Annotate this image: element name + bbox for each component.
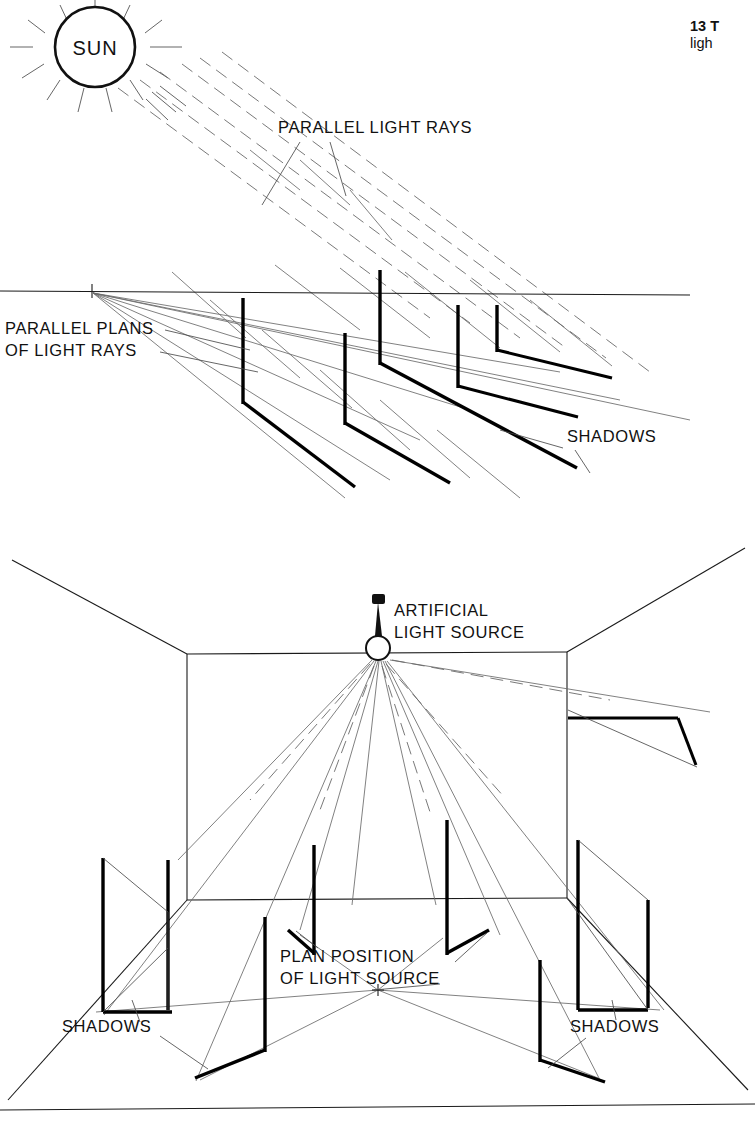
label-parallel-plans-line1: PARALLEL PLANS [5,319,154,337]
back-wall-pole-right [447,820,489,955]
radial-light-rays-dashed [250,660,610,812]
label-shadows-top: SHADOWS [567,427,656,445]
left-wall-shadow-construction [103,858,168,1012]
label-shadows-bottom-left: SHADOWS [62,1017,151,1035]
right-wall-object-and-shadow [578,840,648,1010]
label-artificial-line2: LIGHT SOURCE [394,623,525,641]
label-plan-position-line1: PLAN POSITION [280,947,414,965]
label-parallel-plans-line2: OF LIGHT RAYS [5,341,137,359]
lamp-cap-icon [372,594,385,604]
back-wall-pole-left [288,845,314,955]
page-header-line1: 13 T [690,18,755,35]
technical-illustration: SUN [0,0,755,1124]
shadow [243,402,355,487]
label-parallel-light-rays: PARALLEL LIGHT RAYS [278,118,472,136]
pendant-lamp [366,594,390,660]
page-header-note: 13 T ligh [690,18,755,52]
lamp-cord-icon [375,602,382,636]
sun-diagram: SUN [0,0,690,498]
parallel-light-rays [118,52,650,372]
label-artificial-line1: ARTIFICIAL [394,601,489,619]
sun-label: SUN [72,37,117,59]
drawing-page: SUN [0,0,755,1124]
left-wall-object-and-shadow [103,858,172,1012]
label-shadows-bottom-right: SHADOWS [570,1017,659,1035]
shadow [345,423,450,483]
light-bulb-icon [366,636,390,660]
shadow [380,363,577,468]
leader-parallel-light-rays [262,142,346,205]
parallel-plans-of-light-rays [93,293,690,498]
artificial-light-diagram: ARTIFICIAL LIGHT SOURCE PLAN POSITION OF… [0,548,755,1110]
floor-pole-left-front [195,917,265,1078]
page-header-line2: ligh [690,35,755,52]
label-plan-position-line2: OF LIGHT SOURCE [280,969,440,987]
